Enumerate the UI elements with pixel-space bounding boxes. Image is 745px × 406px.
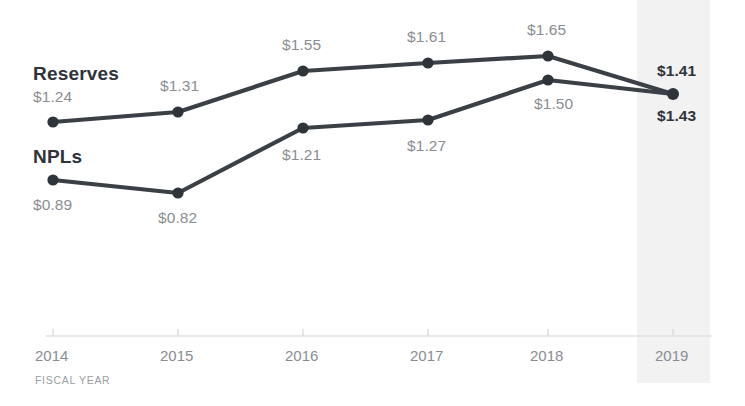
value-label-npls-2019: $1.43 bbox=[657, 107, 696, 125]
data-point-reserves-2018 bbox=[542, 50, 553, 61]
value-label-npls-2014: $0.89 bbox=[33, 196, 72, 214]
x-axis-label-2018: 2018 bbox=[530, 347, 563, 364]
series-line-npls bbox=[53, 80, 673, 193]
series-label-npls: NPLs bbox=[33, 146, 82, 168]
x-axis-label-2017: 2017 bbox=[410, 347, 443, 364]
x-axis-label-2016: 2016 bbox=[285, 347, 318, 364]
chart-plot-area bbox=[0, 0, 745, 406]
series-line-reserves bbox=[53, 56, 673, 122]
data-point-reserves-2015 bbox=[172, 106, 183, 117]
value-label-reserves-2019: $1.41 bbox=[657, 62, 696, 80]
value-label-npls-2017: $1.27 bbox=[407, 137, 446, 155]
x-axis-caption: FISCAL YEAR bbox=[35, 374, 110, 386]
line-chart: Reserves NPLs $1.24 $1.31 $1.55 $1.61 $1… bbox=[0, 0, 745, 406]
data-point-npls-2015 bbox=[172, 187, 183, 198]
x-axis-label-2019: 2019 bbox=[655, 347, 688, 364]
value-label-npls-2015: $0.82 bbox=[158, 209, 197, 227]
data-point-reserves-2016 bbox=[297, 65, 308, 76]
x-axis-label-2015: 2015 bbox=[160, 347, 193, 364]
value-label-reserves-2018: $1.65 bbox=[527, 21, 566, 39]
x-axis-label-2014: 2014 bbox=[35, 347, 68, 364]
value-label-npls-2016: $1.21 bbox=[282, 146, 321, 164]
data-point-2019-convergence bbox=[667, 88, 679, 100]
value-label-reserves-2015: $1.31 bbox=[160, 77, 199, 95]
data-point-reserves-2017 bbox=[422, 57, 433, 68]
data-point-npls-2014 bbox=[47, 174, 58, 185]
series-label-reserves: Reserves bbox=[33, 63, 119, 85]
value-label-reserves-2014: $1.24 bbox=[33, 88, 72, 106]
data-point-reserves-2014 bbox=[47, 116, 58, 127]
data-point-npls-2016 bbox=[297, 122, 308, 133]
data-point-npls-2017 bbox=[422, 114, 433, 125]
data-point-npls-2018 bbox=[542, 74, 553, 85]
value-label-reserves-2017: $1.61 bbox=[407, 28, 446, 46]
value-label-npls-2018: $1.50 bbox=[534, 95, 573, 113]
value-label-reserves-2016: $1.55 bbox=[282, 36, 321, 54]
